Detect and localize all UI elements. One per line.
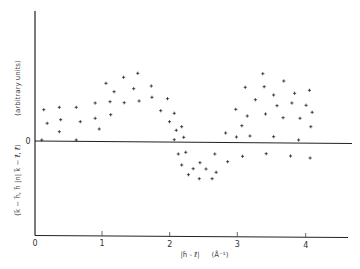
- data-point: [46, 122, 49, 125]
- data-point: [132, 87, 135, 90]
- data-point: [248, 134, 251, 137]
- data-point: [104, 82, 107, 85]
- data-point: [122, 76, 125, 79]
- y-zero-label: 0: [25, 137, 30, 146]
- data-point: [254, 98, 257, 101]
- data-point: [123, 101, 126, 104]
- x-tick-label-3: 3: [235, 240, 240, 249]
- data-point: [281, 116, 284, 119]
- data-point: [159, 109, 162, 112]
- data-point: [309, 125, 312, 128]
- data-point: [304, 104, 307, 107]
- data-point: [112, 90, 115, 93]
- data-point: [136, 72, 139, 75]
- data-point: [275, 104, 278, 107]
- data-point: [187, 173, 190, 176]
- data-point: [94, 101, 97, 104]
- data-point: [297, 138, 300, 141]
- data-point: [261, 72, 264, 75]
- data-point: [184, 151, 187, 154]
- data-point: [42, 108, 45, 111]
- data-point: [198, 177, 201, 180]
- data-point: [168, 120, 171, 123]
- data-point: [109, 113, 112, 116]
- data-point: [150, 96, 153, 99]
- data-point: [244, 86, 247, 89]
- x-tick-label-4: 4: [303, 241, 308, 250]
- data-point: [198, 161, 201, 164]
- data-point: [311, 111, 314, 114]
- data-point: [58, 130, 61, 133]
- data-point: [226, 160, 229, 163]
- data-point: [265, 152, 268, 155]
- zero-line: [35, 141, 352, 144]
- data-point: [59, 118, 62, 121]
- data-point: [234, 108, 237, 111]
- data-point: [215, 171, 218, 174]
- y-axis-label-expr: (k⃗ − h⃗, h⃗ |n| k⃗ − ℓ⃗, ℓ⃗): [13, 144, 22, 216]
- data-point: [246, 114, 249, 117]
- x-axis-label-unit: (Å⁻¹): [212, 250, 229, 259]
- data-point: [289, 154, 292, 157]
- data-point: [309, 156, 312, 159]
- data-point: [94, 117, 97, 120]
- data-point: [290, 101, 293, 104]
- data-point: [192, 167, 195, 170]
- data-point: [298, 117, 301, 120]
- y-axis-label-unit: (arbitrary units): [14, 60, 22, 116]
- data-point: [211, 177, 214, 180]
- data-point: [108, 100, 111, 103]
- data-point: [235, 135, 238, 138]
- data-point: [173, 138, 176, 141]
- data-point: [241, 155, 244, 158]
- data-point: [308, 89, 311, 92]
- scatter-chart: 0 1 2 3 4 0 |h⃗ - ℓ⃗| (Å⁻¹) (k⃗ − h⃗, h⃗…: [0, 0, 360, 269]
- data-point: [204, 167, 207, 170]
- data-point: [175, 129, 178, 132]
- data-point: [79, 120, 82, 123]
- data-point: [272, 93, 275, 96]
- data-point: [282, 79, 285, 82]
- data-point: [177, 152, 180, 155]
- data-point: [293, 92, 296, 95]
- data-points: [40, 72, 314, 181]
- data-point: [240, 124, 243, 127]
- data-point: [138, 99, 141, 102]
- data-point: [173, 112, 176, 115]
- data-point: [224, 131, 227, 134]
- x-axis: [35, 236, 348, 238]
- data-point: [180, 125, 183, 128]
- x-tick-label-0: 0: [32, 239, 37, 248]
- data-point: [58, 106, 61, 109]
- data-point: [150, 84, 153, 87]
- data-point: [264, 112, 267, 115]
- data-point: [75, 106, 78, 109]
- data-point: [182, 136, 185, 139]
- data-point: [213, 152, 216, 155]
- data-point: [166, 97, 169, 100]
- x-axis-label-expr: |h⃗ - ℓ⃗|: [180, 250, 199, 259]
- data-point: [263, 85, 266, 88]
- data-point: [98, 127, 101, 130]
- data-point: [180, 163, 183, 166]
- data-point: [272, 135, 275, 138]
- x-tick-label-1: 1: [99, 239, 104, 248]
- x-tick-label-2: 2: [167, 240, 172, 249]
